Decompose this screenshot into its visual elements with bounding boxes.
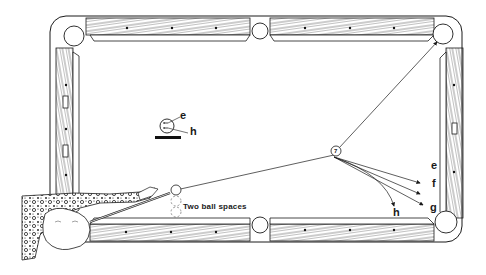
pocket-bottom-right	[435, 211, 457, 233]
object-ball-number: 7	[334, 148, 337, 154]
top-rail-right	[270, 18, 434, 41]
right-rail	[440, 48, 463, 218]
table-frame	[50, 16, 462, 242]
pocket-bottom-middle	[252, 217, 268, 233]
pocket-top-left	[64, 26, 84, 46]
pool-table-diagram	[0, 0, 486, 275]
path-label-g: g	[430, 202, 437, 213]
inset-label-e: e	[180, 110, 186, 121]
path-label-f: f	[432, 178, 436, 189]
inset-label-h: h	[190, 126, 197, 137]
top-rail-left	[86, 18, 250, 41]
bottom-rail-left	[90, 218, 250, 241]
two-ball-spaces-annotation: Two ball spaces	[183, 203, 247, 211]
bottom-rail-right	[270, 218, 434, 241]
left-rail	[56, 48, 79, 214]
path-label-h: h	[393, 207, 400, 218]
pocket-top-right	[433, 24, 453, 44]
pocket-top-middle	[252, 23, 268, 39]
path-label-e: e	[431, 160, 437, 171]
